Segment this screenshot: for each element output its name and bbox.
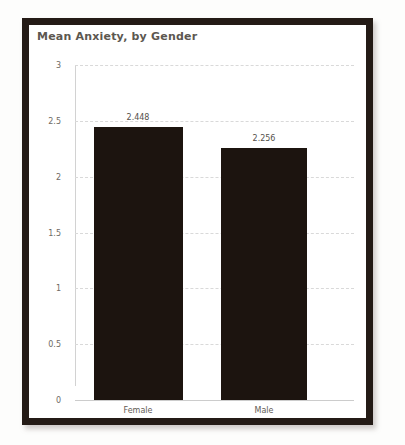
x-category-label-female: Female (124, 406, 153, 415)
y-tick-label-2: 2 (21, 173, 61, 182)
y-axis-line (75, 65, 76, 386)
y-tick-label-0: 0 (21, 396, 61, 405)
bar-female[interactable] (94, 127, 183, 400)
plot-area: 3 2.5 2 1.5 1 0.5 0 2.448 2.256 Female M… (29, 25, 366, 418)
chart-frame: Mean Anxiety, by Gender 3 2.5 2 1.5 1 0.… (22, 18, 373, 425)
bar-value-label-male: 2.256 (253, 134, 276, 143)
scan-background: Mean Anxiety, by Gender 3 2.5 2 1.5 1 0.… (0, 0, 405, 445)
y-tick-label-2.5: 2.5 (21, 117, 61, 126)
gridline-0 (75, 400, 354, 401)
y-tick-label-1: 1 (21, 284, 61, 293)
gridline-2.5 (75, 121, 354, 122)
y-tick-label-1.5: 1.5 (21, 229, 61, 238)
y-tick-label-0.5: 0.5 (21, 340, 61, 349)
gridline-3 (75, 65, 354, 66)
x-category-label-male: Male (255, 406, 274, 415)
bar-male[interactable] (221, 148, 307, 400)
y-tick-label-3: 3 (21, 61, 61, 70)
bar-value-label-female: 2.448 (127, 113, 150, 122)
